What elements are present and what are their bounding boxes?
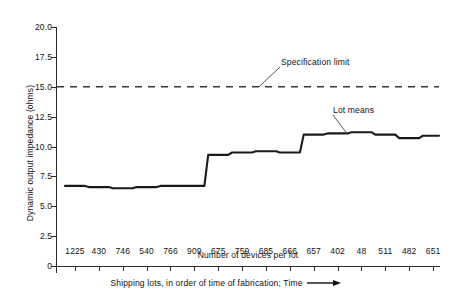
y-axis-tick-label: 0	[22, 261, 52, 271]
x-axis-tick-label: 666	[283, 246, 297, 256]
x-axis-tick-label: 657	[306, 246, 320, 256]
x-axis-tick-label: 402	[330, 246, 344, 256]
y-axis-tick-labels: 02.55.07.510.012.515.017.520.0	[20, 0, 52, 296]
x-axis-tick	[361, 266, 362, 271]
chart-svg	[56, 20, 440, 272]
chart-figure: Dynamic output impedance (ohms) 02.55.07…	[0, 0, 451, 296]
y-axis-tick	[51, 176, 57, 177]
x-axis-tick	[242, 266, 243, 271]
lot-means-leader-line	[333, 115, 346, 132]
annotation-specification-limit: Specification limit	[281, 57, 350, 67]
x-axis-tick	[433, 266, 434, 271]
y-axis-tick	[51, 87, 57, 88]
x-axis-caption: Shipping lots, in order of time of fabri…	[0, 278, 451, 289]
y-axis-tick	[51, 147, 57, 148]
lot-means-line	[65, 132, 439, 188]
x-axis-tick-label: 511	[378, 246, 392, 256]
x-axis-tick	[218, 266, 219, 271]
x-axis-tick-label: 746	[115, 246, 129, 256]
y-axis-tick-label: 20.0	[22, 22, 52, 32]
x-axis-tick	[194, 266, 195, 271]
x-axis-tick	[75, 266, 76, 271]
annotation-lot-means: Lot means	[333, 105, 374, 115]
x-axis-tick	[170, 266, 171, 271]
x-axis-tick-label: 675	[211, 246, 225, 256]
y-axis-tick-label: 5.0	[22, 201, 52, 211]
plot-area: Number of devices per lot 12254307465407…	[56, 20, 440, 272]
y-axis-tick	[51, 206, 57, 207]
x-axis-tick	[99, 266, 100, 271]
y-axis-tick-label: 17.5	[22, 52, 52, 62]
y-axis-tick-label: 10.0	[22, 142, 52, 152]
x-axis-tick	[290, 266, 291, 271]
x-axis-tick	[314, 266, 315, 271]
x-axis-tick-label: 685	[259, 246, 273, 256]
x-axis-tick	[385, 266, 386, 271]
x-axis-tick	[147, 266, 148, 271]
x-axis-tick-label: 759	[235, 246, 249, 256]
x-axis-tick-label: 909	[187, 246, 201, 256]
y-axis-tick	[51, 236, 57, 237]
time-arrow-icon	[307, 279, 341, 289]
x-axis-tick	[338, 266, 339, 271]
x-axis-tick-label: 430	[92, 246, 106, 256]
specification-limit-leader-line	[259, 67, 280, 87]
x-axis-tick-label: 651	[426, 246, 440, 256]
y-axis-tick	[51, 27, 57, 28]
y-axis-tick-label: 2.5	[22, 231, 52, 241]
x-axis-tick-label: 1225	[65, 246, 84, 256]
y-axis-tick-label: 7.5	[22, 171, 52, 181]
y-axis-tick	[51, 117, 57, 118]
x-axis-caption-text: Shipping lots, in order of time of fabri…	[110, 278, 302, 288]
x-axis-tick	[123, 266, 124, 271]
x-axis-tick	[409, 266, 410, 271]
x-axis-tick-label: 48	[357, 246, 367, 256]
y-axis-tick	[51, 57, 57, 58]
x-axis-tick	[266, 266, 267, 271]
x-axis-tick-label: 482	[402, 246, 416, 256]
y-axis-tick	[51, 266, 57, 267]
x-axis-tick-label: 540	[139, 246, 153, 256]
y-axis-tick-label: 15.0	[22, 82, 52, 92]
y-axis-tick-label: 12.5	[22, 112, 52, 122]
x-axis-tick-label: 766	[163, 246, 177, 256]
